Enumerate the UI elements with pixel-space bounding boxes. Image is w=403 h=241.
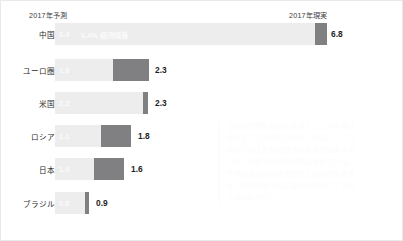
row-annotation-label: 6.4% 経済成長 (81, 29, 128, 40)
row-category-label: ブラジル (23, 198, 55, 209)
forecast-bar-segment: 1.8 (55, 59, 113, 81)
row-category-label: 中国 (39, 29, 55, 40)
watermark-line: その国際通貨基金によると、この予測は (227, 121, 379, 131)
row-category-label: ユーロ圏 (23, 65, 55, 76)
forecast-bar-segment: 6.4 6.4% 経済成長 (55, 23, 315, 45)
row-category-label: 日本 (39, 164, 55, 175)
forecast-bar-segment: 2.2 (55, 92, 143, 114)
watermark-line: 一方、米国では減速が見込まれている。 (227, 157, 379, 167)
row-category-label: ロシア (31, 131, 55, 142)
actual-bar-segment (143, 92, 148, 114)
actual-value-label: 6.8 (331, 29, 343, 39)
header-forecast-label: 2017年予測 (29, 10, 67, 20)
watermark-line: せ、新興国を中心に投資が拡大している (227, 181, 379, 191)
actual-value-label: 2.3 (155, 65, 167, 75)
forecast-value-label: 1.0 (59, 165, 69, 174)
forecast-value-label: 2.2 (59, 99, 69, 108)
actual-value-label: 0.9 (96, 198, 108, 208)
watermark-line: との分析を示した。 (227, 193, 379, 203)
actual-bar-segment (101, 125, 131, 147)
forecast-value-label: 0.8 (59, 199, 69, 208)
chart-row: 米国 2.2 2.3 (1, 92, 403, 114)
actual-bar-segment (315, 23, 327, 45)
watermark-line: 世界経済は当初の予想を上回る回復を見 (227, 169, 379, 179)
watermark-line: 圏などの主要経済圏では成長が加速する (227, 145, 379, 155)
forecast-value-label: 1.8 (59, 66, 69, 75)
forecast-bar-segment: 1.0 (55, 158, 94, 180)
forecast-value-label: 1.1 (59, 132, 69, 141)
chart-container: 2017年予測 2017年現実 中国 6.4 6.4% 経済成長 6.8 ユーロ… (0, 0, 403, 241)
forecast-bar-segment: 1.1 (55, 125, 101, 147)
actual-value-label: 1.8 (138, 131, 150, 141)
forecast-value-label: 6.4 (59, 30, 69, 39)
row-category-label: 米国 (39, 98, 55, 109)
watermark-line: 前回より上方修正された。中国、ユーロ (227, 133, 379, 143)
actual-bar-segment (85, 192, 89, 214)
watermark-text-block: その国際通貨基金によると、この予測は 前回より上方修正された。中国、ユーロ 圏な… (219, 121, 379, 205)
chart-row: ユーロ圏 1.8 2.3 (1, 59, 403, 81)
actual-bar-segment (113, 59, 149, 81)
actual-bar-segment (94, 158, 124, 180)
actual-value-label: 1.6 (131, 164, 143, 174)
actual-value-label: 2.3 (155, 98, 167, 108)
chart-row: 中国 6.4 6.4% 経済成長 6.8 (1, 23, 403, 45)
forecast-bar-segment: 0.8 (55, 192, 85, 214)
header-actual-label: 2017年現実 (289, 10, 327, 20)
